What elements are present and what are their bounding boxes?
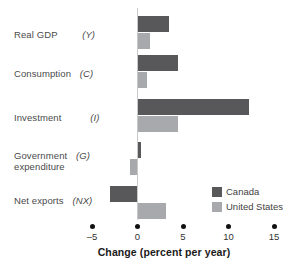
bar-united-states-net-exports — [138, 203, 166, 219]
legend-swatch-icon — [212, 187, 222, 197]
x-tick-label: 0 — [123, 231, 153, 242]
x-tick-dot — [181, 224, 186, 229]
legend-item-united-states: United States — [212, 200, 283, 213]
bar-canada-investment — [138, 99, 250, 115]
x-tick-dot — [90, 224, 95, 229]
x-tick-label: 5 — [168, 231, 198, 242]
legend-label: United States — [226, 201, 283, 212]
x-axis: –5051015 Change (percent per year) — [0, 224, 306, 268]
legend-label: Canada — [226, 186, 259, 197]
x-tick-dot — [272, 224, 277, 229]
x-tick-label: –5 — [77, 231, 107, 242]
bar-chart: Real GDP (Y) Consumption (C) Investment … — [0, 0, 306, 268]
x-tick-dot — [226, 224, 231, 229]
bar-canada-consumption — [138, 55, 178, 71]
x-tick-dot — [135, 224, 140, 229]
legend-swatch-icon — [212, 202, 222, 212]
x-tick-label: 10 — [214, 231, 244, 242]
bar-canada-net-exports — [110, 186, 137, 202]
bar-united-states-government-expenditure — [130, 159, 137, 175]
legend-item-canada: Canada — [212, 185, 283, 198]
bar-canada-real-gdp — [138, 16, 170, 32]
x-tick-label: 15 — [259, 231, 289, 242]
bar-canada-government-expenditure — [138, 142, 142, 158]
legend: Canada United States — [212, 185, 283, 215]
bar-united-states-real-gdp — [138, 33, 151, 49]
x-axis-title: Change (percent per year) — [0, 246, 306, 258]
bar-united-states-consumption — [138, 72, 147, 88]
bar-united-states-investment — [138, 116, 178, 132]
